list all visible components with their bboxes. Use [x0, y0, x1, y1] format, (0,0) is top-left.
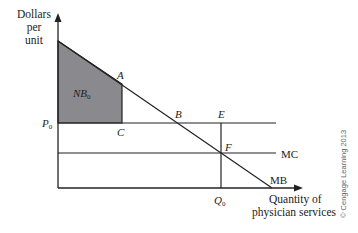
point-b-label: B [175, 108, 182, 120]
nb0-shaded-area [58, 41, 122, 123]
copyright-text: © Cengage Learning 2013 [339, 130, 348, 218]
p0-label: P0 [42, 117, 52, 133]
q0-label: Q0 [214, 194, 225, 210]
y-axis-title: Dollars per unit [12, 8, 56, 47]
y-axis-title-line2: per [12, 21, 56, 34]
mc-label: MC [281, 148, 298, 160]
x-axis-arrow-icon [294, 185, 303, 192]
point-c-label: C [117, 126, 124, 138]
nb0-label: NB0 [73, 87, 91, 103]
point-f-label: F [225, 141, 232, 153]
y-axis-title-line3: unit [12, 34, 56, 47]
mb-label: MB [270, 174, 287, 186]
point-e-label: E [218, 108, 225, 120]
y-axis-title-line1: Dollars [12, 8, 56, 21]
point-a-label: A [117, 69, 124, 81]
